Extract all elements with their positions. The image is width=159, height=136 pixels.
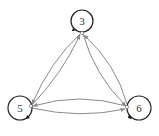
edge-5-to-6: [32, 108, 125, 114]
node-3[interactable]: 3: [71, 10, 93, 35]
node-5-label: 5: [17, 102, 23, 114]
edge-3-to-5: [32, 34, 80, 104]
edge-3-to-6: [83, 34, 126, 106]
node-6-label: 6: [136, 102, 142, 114]
node-5-port: [29, 104, 32, 107]
node-6[interactable]: 6: [125, 96, 151, 120]
node-3-label: 3: [79, 15, 85, 27]
node-3-port: [80, 31, 83, 34]
edge-6-to-5: [33, 99, 126, 106]
node-6-port: [125, 105, 128, 108]
graph-diagram: 3 5 6: [0, 0, 159, 136]
node-5[interactable]: 5: [8, 96, 33, 120]
edge-6-to-3: [84, 35, 127, 104]
edge-5-to-3: [31, 35, 80, 106]
